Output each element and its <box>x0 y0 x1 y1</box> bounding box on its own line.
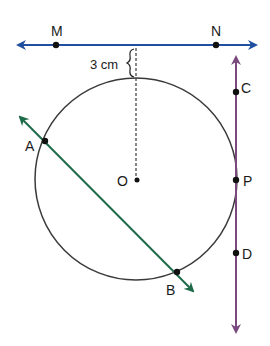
point-a <box>42 138 48 144</box>
label-distance: 3 cm <box>90 57 118 72</box>
label-b: B <box>166 282 175 298</box>
point-b <box>174 269 180 275</box>
point-m <box>53 42 59 48</box>
distance-brace <box>127 49 134 77</box>
geometry-diagram: M N C P D A B O 3 cm <box>0 0 270 346</box>
point-n <box>213 42 219 48</box>
point-c <box>233 89 239 95</box>
label-a: A <box>25 138 35 154</box>
point-o <box>135 178 140 183</box>
label-m: M <box>51 23 63 39</box>
point-d <box>233 250 239 256</box>
point-p <box>233 177 239 183</box>
label-c: C <box>241 80 251 96</box>
label-d: D <box>242 246 252 262</box>
label-n: N <box>211 23 221 39</box>
label-o: O <box>117 173 128 189</box>
label-p: P <box>243 173 252 189</box>
